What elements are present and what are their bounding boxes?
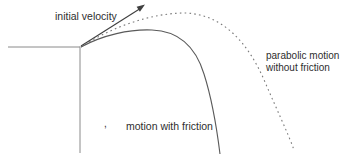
stray-comma-mark: , [104, 118, 107, 130]
friction-curve [81, 30, 220, 154]
diagram-canvas [0, 0, 340, 160]
no-friction-label: parabolic motion without friction [266, 50, 339, 74]
no-friction-label-line2: without friction [266, 62, 339, 74]
velocity-arrowhead-icon [137, 5, 145, 12]
projectile-motion-diagram: initial velocity parabolic motion withou… [0, 0, 340, 160]
with-friction-label: motion with friction [126, 120, 213, 132]
initial-velocity-label: initial velocity [55, 10, 117, 22]
no-friction-label-line1: parabolic motion [266, 50, 339, 62]
